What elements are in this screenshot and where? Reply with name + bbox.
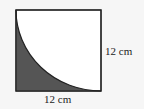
bottom-side-label: 12 cm [44, 93, 71, 105]
right-side-label: 12 cm [105, 45, 132, 57]
